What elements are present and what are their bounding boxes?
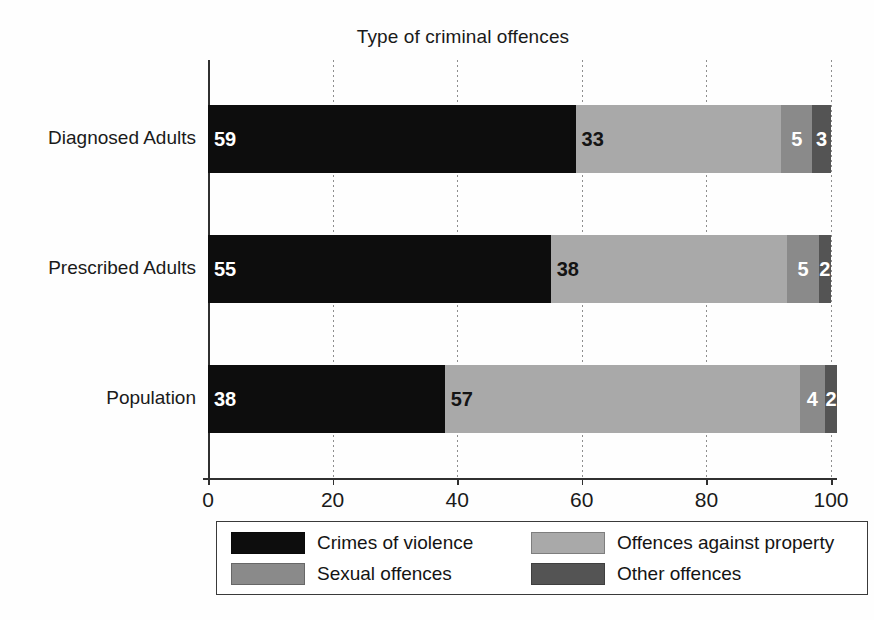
legend-item[interactable]: Other offences: [531, 563, 867, 585]
legend-label: Other offences: [617, 563, 741, 585]
x-tick-label-0: 0: [202, 488, 214, 512]
bar-value-label: 57: [451, 389, 473, 409]
x-tick-80: [706, 478, 708, 485]
bar-segment[interactable]: 59: [208, 105, 576, 173]
legend-swatch: [531, 532, 605, 554]
x-tick-100: [831, 478, 833, 485]
legend: Crimes of violenceOffences against prope…: [216, 521, 868, 595]
bar-segment[interactable]: 38: [208, 365, 445, 433]
legend-swatch: [231, 532, 305, 554]
legend-label: Sexual offences: [317, 563, 452, 585]
bar-segment[interactable]: 38: [551, 235, 788, 303]
x-axis-line: [203, 478, 837, 480]
stacked-bar-chart: Type of criminal offences Diagnosed Adul…: [0, 0, 874, 620]
bar-segment[interactable]: 5: [787, 235, 818, 303]
bar-segment[interactable]: 4: [800, 365, 825, 433]
legend-item[interactable]: Sexual offences: [231, 563, 531, 585]
bar-value-label: 33: [582, 129, 604, 149]
category-label: Population: [106, 387, 196, 409]
bar-value-label: 5: [791, 129, 802, 149]
legend-label: Crimes of violence: [317, 532, 473, 554]
bar-row[interactable]: 385742: [208, 365, 831, 433]
category-label: Prescribed Adults: [48, 257, 196, 279]
bar-segment[interactable]: 3: [812, 105, 831, 173]
chart-title: Type of criminal offences: [0, 26, 874, 48]
category-axis-labels: Diagnosed AdultsPrescribed AdultsPopulat…: [0, 60, 196, 478]
x-tick-label-80: 80: [695, 488, 718, 512]
bar-value-label: 2: [825, 389, 836, 409]
x-tick-label-40: 40: [446, 488, 469, 512]
bar-segment[interactable]: 5: [781, 105, 812, 173]
legend-swatch: [531, 563, 605, 585]
bar-value-label: 38: [214, 389, 236, 409]
bar-value-label: 5: [797, 259, 808, 279]
bar-value-label: 4: [807, 389, 818, 409]
bar-value-label: 3: [816, 129, 827, 149]
x-tick-label-20: 20: [321, 488, 344, 512]
plot-area: 593353553852385742 020406080100: [208, 60, 831, 478]
legend-item[interactable]: Crimes of violence: [231, 532, 531, 554]
category-label: Diagnosed Adults: [48, 127, 196, 149]
bar-value-label: 59: [214, 129, 236, 149]
bar-value-label: 38: [557, 259, 579, 279]
legend-item[interactable]: Offences against property: [531, 532, 867, 554]
legend-swatch: [231, 563, 305, 585]
chart-title-text: Type of criminal offences: [357, 26, 569, 48]
x-tick-0: [208, 478, 210, 485]
x-tick-60: [582, 478, 584, 485]
legend-label: Offences against property: [617, 532, 834, 554]
bar-segment[interactable]: 2: [825, 365, 837, 433]
bar-value-label: 55: [214, 259, 236, 279]
bar-segment[interactable]: 2: [819, 235, 831, 303]
bar-segment[interactable]: 57: [445, 365, 800, 433]
x-tick-label-100: 100: [813, 488, 848, 512]
bar-row[interactable]: 593353: [208, 105, 831, 173]
bar-value-label: 2: [819, 259, 830, 279]
bar-segment[interactable]: 33: [576, 105, 782, 173]
bar-row[interactable]: 553852: [208, 235, 831, 303]
x-tick-20: [333, 478, 335, 485]
x-tick-label-60: 60: [570, 488, 593, 512]
x-tick-40: [457, 478, 459, 485]
bar-segment[interactable]: 55: [208, 235, 551, 303]
